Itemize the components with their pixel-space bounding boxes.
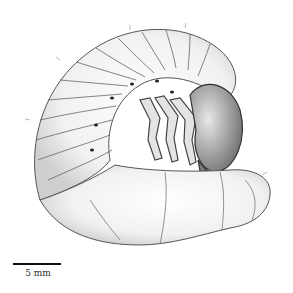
scale-bar-label: 5 mm — [14, 268, 62, 278]
larva-drawing — [0, 0, 293, 293]
larva-illustration-figure: 5 mm — [0, 0, 293, 293]
thoracic-legs — [140, 96, 196, 165]
scale-bar — [13, 263, 61, 265]
